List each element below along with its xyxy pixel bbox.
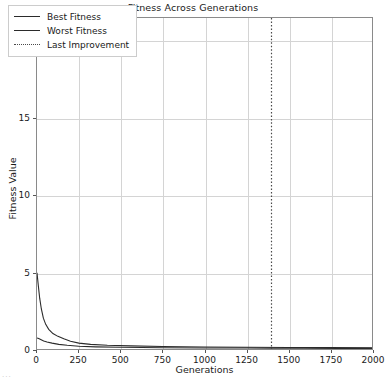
legend-line-icon xyxy=(14,26,40,36)
legend-line-icon xyxy=(14,12,40,22)
legend-item-label: Last Improvement xyxy=(47,40,129,50)
y-axis-label: Fitness Value xyxy=(7,114,18,264)
chart-legend: Best Fitness Worst Fitness Last Improvem… xyxy=(8,5,137,57)
x-tick-mark xyxy=(373,350,374,353)
y-tick-mark xyxy=(33,273,36,274)
legend-item: Best Fitness xyxy=(14,10,129,24)
render-artifact: ... xyxy=(2,371,12,379)
series-line xyxy=(37,273,372,348)
legend-item-label: Worst Fitness xyxy=(47,26,107,36)
data-curves-layer xyxy=(37,18,372,349)
x-axis-label: Generations xyxy=(36,364,373,375)
y-tick-mark xyxy=(33,350,36,351)
legend-item: Worst Fitness xyxy=(14,24,129,38)
x-tick-mark xyxy=(120,350,121,353)
plot-area xyxy=(36,17,373,350)
y-tick-mark xyxy=(33,118,36,119)
x-tick-mark xyxy=(205,350,206,353)
legend-item-label: Best Fitness xyxy=(47,12,101,22)
legend-dotted-line-icon xyxy=(14,40,40,50)
x-tick-mark xyxy=(289,350,290,353)
x-tick-mark xyxy=(247,350,248,353)
x-tick-mark xyxy=(36,350,37,353)
x-tick-mark xyxy=(162,350,163,353)
x-tick-mark xyxy=(331,350,332,353)
x-tick-mark xyxy=(78,350,79,353)
y-tick-label: 0 xyxy=(0,345,30,355)
chart-figure: Fitness Across Generations 0250500750100… xyxy=(0,0,386,381)
legend-item: Last Improvement xyxy=(14,38,129,52)
y-tick-mark xyxy=(33,195,36,196)
y-tick-label: 5 xyxy=(0,268,30,278)
